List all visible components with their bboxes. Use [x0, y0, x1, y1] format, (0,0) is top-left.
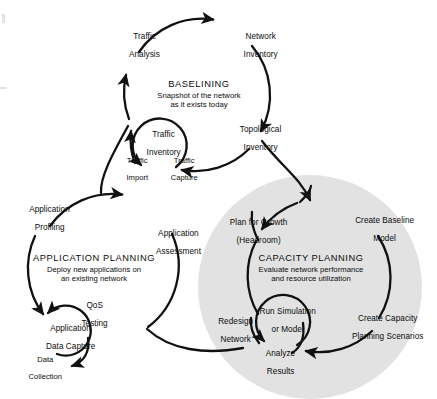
- arrow-topological-inventory-to-traffic-capture: [182, 149, 249, 171]
- scan-artifact-top-left: [2, 14, 5, 23]
- application-data-capture-subcycle-arrows: [48, 306, 91, 366]
- arrow-data-collection-to-qos-testing: [48, 306, 91, 356]
- traffic-inventory-subcycle-arrows: [130, 118, 186, 167]
- diagram-canvas: [0, 0, 437, 399]
- network-lifecycle-diagram: BASELINING Snapshot of the network as it…: [0, 0, 437, 399]
- arrow-traffic-capture-to-traffic-import: [133, 118, 187, 167]
- arrow-traffic-analysis-to-network-inventory: [139, 19, 213, 52]
- capacity-planning-shaded-disc: [198, 175, 422, 399]
- arrow-traffic-inventory-to-traffic-analysis: [124, 75, 129, 119]
- scan-artifact-mid-left: [0, 87, 7, 89]
- arrow-left-arc-to-application-data-capture: [28, 236, 43, 314]
- arrow-application-profiling-to-application-assessment: [50, 194, 122, 226]
- arc-application-assessment-down: [148, 234, 179, 327]
- baselining-cycle-arrows: [124, 19, 310, 200]
- line-baselining-to-application-planning: [101, 126, 128, 193]
- arrow-network-inventory-to-topological-inventory: [252, 46, 270, 131]
